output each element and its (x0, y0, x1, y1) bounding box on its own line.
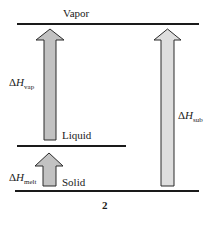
enthalpy-symbol: H (185, 109, 193, 121)
vap-subscript: vap (24, 83, 34, 91)
melt-subscript: melt (24, 178, 36, 186)
liquid-label: Liquid (62, 130, 91, 141)
solid-label: Solid (62, 177, 85, 188)
melt-arrow (35, 153, 63, 186)
delta-h-vap-label: ΔHvap (9, 77, 34, 91)
enthalpy-symbol: H (16, 171, 24, 183)
vap-arrow (36, 29, 64, 140)
delta-h-sub-label: ΔHsub (178, 110, 203, 124)
figure-caption: 2 (102, 200, 108, 211)
sub-subscript: sub (193, 116, 203, 124)
delta-h-melt-label: ΔHmelt (9, 172, 36, 186)
sub-arrow (154, 29, 181, 186)
enthalpy-symbol: H (16, 76, 24, 88)
